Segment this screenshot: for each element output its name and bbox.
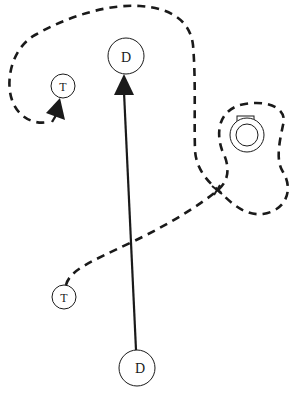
solid-arrowhead-icon [114,74,134,95]
defender-node-bottom: D [119,350,155,386]
obstacle-icon [230,116,264,152]
solid-movement-line [124,92,136,350]
target-label: T [59,80,67,94]
movement-diagram: D T T D [0,0,295,396]
target-node-bottom: T [52,285,76,309]
defender-label: D [135,361,145,376]
defender-node-top: D [108,38,144,74]
target-label: T [60,291,68,305]
defender-label: D [121,50,131,65]
target-node-top: T [51,74,75,98]
